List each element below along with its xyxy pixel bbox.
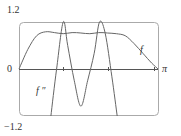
series-label-f-double-prime: f ″ [36, 86, 45, 96]
chart-plot [0, 0, 181, 136]
series-label-f: f [140, 45, 143, 55]
y-tick-label-bottom: −1.2 [4, 122, 22, 132]
y-tick-label-top: 1.2 [7, 5, 20, 15]
y-tick-label-zero: 0 [7, 64, 12, 74]
curve-f-double-prime [51, 21, 117, 116]
curve-f [19, 32, 158, 69]
x-tick-label-pi: π [162, 64, 167, 74]
